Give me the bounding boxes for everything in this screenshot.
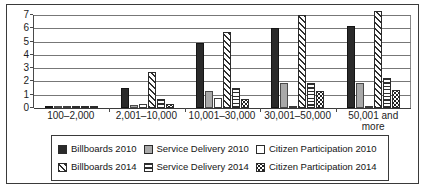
bar-group-4 xyxy=(260,15,335,108)
horizontal-lines-icon xyxy=(144,163,153,172)
bar-3-5 xyxy=(232,88,240,108)
bar-group-2 xyxy=(109,15,184,108)
y-tick-mark-5 xyxy=(30,41,33,42)
bar-4-6 xyxy=(316,91,324,108)
legend-row-2010: Billboards 2010Service Delivery 2010Citi… xyxy=(58,140,382,158)
bar-3-6 xyxy=(241,99,249,108)
y-tick-mark-7 xyxy=(30,14,33,15)
bar-5-2 xyxy=(356,83,364,108)
legend-label: Service Delivery 2014 xyxy=(157,162,249,172)
y-tick-label-2: 2 xyxy=(23,76,29,86)
bar-groups xyxy=(34,15,411,108)
bar-1-3 xyxy=(63,106,71,108)
chart-screenshot: 01234567 100–2,0002,001–10,00010,001–30,… xyxy=(0,0,425,188)
solid-black-icon xyxy=(58,145,67,154)
legend-item-2-2[interactable]: Service Delivery 2014 xyxy=(144,162,249,172)
bar-2-1 xyxy=(121,88,129,108)
category-label-5: 50,001 and more xyxy=(335,110,411,132)
bar-5-4 xyxy=(374,11,382,108)
bar-3-3 xyxy=(214,98,222,108)
legend-item-1-3[interactable]: Citizen Participation 2010 xyxy=(256,144,377,154)
bar-group-3 xyxy=(185,15,260,108)
bar-4-2 xyxy=(280,83,288,108)
bar-1-1 xyxy=(45,106,53,108)
legend-label: Citizen Participation 2014 xyxy=(269,162,377,172)
bar-2-5 xyxy=(157,99,165,108)
y-tick-label-4: 4 xyxy=(23,50,29,60)
dotted-checker-icon xyxy=(256,163,265,172)
bar-1-5 xyxy=(81,106,89,108)
legend-row-2014: Billboards 2014Service Delivery 2014Citi… xyxy=(58,158,382,176)
solid-gray-icon xyxy=(144,145,153,154)
y-tick-label-1: 1 xyxy=(23,90,29,100)
legend-label: Billboards 2014 xyxy=(71,162,137,172)
y-tick-mark-6 xyxy=(30,27,33,28)
y-tick-label-3: 3 xyxy=(23,63,29,73)
legend-item-1-1[interactable]: Billboards 2010 xyxy=(58,144,137,154)
solid-white-icon xyxy=(256,145,265,154)
bar-5-5 xyxy=(383,78,391,108)
bar-5-3 xyxy=(365,106,373,108)
diagonal-hatch-icon xyxy=(58,163,67,172)
legend-label: Citizen Participation 2010 xyxy=(269,144,377,154)
y-tick-label-6: 6 xyxy=(23,23,29,33)
legend-item-2-3[interactable]: Citizen Participation 2014 xyxy=(256,162,377,172)
bar-1-6 xyxy=(90,106,98,108)
bar-4-1 xyxy=(271,28,279,108)
bar-3-4 xyxy=(223,32,231,108)
legend-label: Service Delivery 2010 xyxy=(157,144,249,154)
y-tick-mark-2 xyxy=(30,80,33,81)
plot-area: 01234567 xyxy=(33,15,411,108)
bar-1-4 xyxy=(72,106,80,108)
bar-4-4 xyxy=(298,15,306,108)
bar-2-2 xyxy=(130,105,138,108)
y-tick-mark-3 xyxy=(30,67,33,68)
x-axis-baseline xyxy=(34,108,411,109)
y-tick-label-5: 5 xyxy=(23,37,29,47)
plot-axes xyxy=(33,15,411,108)
bar-5-1 xyxy=(347,26,355,108)
bar-3-2 xyxy=(205,91,213,108)
y-tick-mark-4 xyxy=(30,54,33,55)
y-tick-label-0: 0 xyxy=(23,103,29,113)
chart-legend: Billboards 2010Service Delivery 2010Citi… xyxy=(51,135,389,181)
bar-5-6 xyxy=(392,90,400,108)
bar-group-5 xyxy=(336,15,411,108)
legend-label: Billboards 2010 xyxy=(71,144,137,154)
category-label-2: 2,001–10,000 xyxy=(109,110,185,132)
bar-group-1 xyxy=(34,15,109,108)
bar-1-2 xyxy=(54,106,62,108)
bar-2-3 xyxy=(139,104,147,108)
chart-frame: 01234567 100–2,0002,001–10,00010,001–30,… xyxy=(6,4,419,184)
bar-3-1 xyxy=(196,43,204,108)
bar-2-6 xyxy=(166,104,174,108)
category-label-4: 30,001–50,000 xyxy=(260,110,336,132)
y-tick-mark-0 xyxy=(30,107,33,108)
legend-item-1-2[interactable]: Service Delivery 2010 xyxy=(144,144,249,154)
bar-4-3 xyxy=(289,106,297,108)
bar-4-5 xyxy=(307,83,315,108)
bar-2-4 xyxy=(148,72,156,108)
category-label-3: 10,001–30,000 xyxy=(184,110,260,132)
legend-item-2-1[interactable]: Billboards 2014 xyxy=(58,162,137,172)
y-tick-mark-1 xyxy=(30,94,33,95)
category-label-1: 100–2,000 xyxy=(33,110,109,132)
x-axis-category-labels: 100–2,0002,001–10,00010,001–30,00030,001… xyxy=(33,110,411,132)
y-tick-label-7: 7 xyxy=(23,10,29,20)
